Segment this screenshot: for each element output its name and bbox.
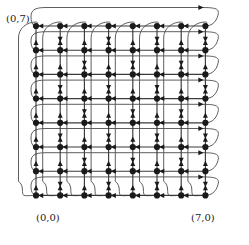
graph-node[interactable] xyxy=(33,144,39,150)
edge-arrow-down-stub xyxy=(155,182,160,187)
edge-arrow-up xyxy=(179,40,184,45)
graph-node[interactable] xyxy=(81,96,87,102)
edge-arrow-up xyxy=(34,88,39,93)
graph-node[interactable] xyxy=(57,23,63,29)
graph-node[interactable] xyxy=(130,47,136,53)
edge-arrow-down-stub xyxy=(130,109,135,114)
graph-node[interactable] xyxy=(106,144,112,150)
graph-node[interactable] xyxy=(106,23,112,29)
graph-node[interactable] xyxy=(81,144,87,150)
graph-node[interactable] xyxy=(57,47,63,53)
graph-node[interactable] xyxy=(154,71,160,77)
graph-node[interactable] xyxy=(178,120,184,126)
graph-node[interactable] xyxy=(130,144,136,150)
graph-node[interactable] xyxy=(202,47,208,53)
graph-node[interactable] xyxy=(202,96,208,102)
graph-node[interactable] xyxy=(81,168,87,174)
graph-node[interactable] xyxy=(57,168,63,174)
edge-arrow-up xyxy=(82,137,87,142)
graph-node[interactable] xyxy=(154,47,160,53)
graph-node[interactable] xyxy=(154,192,160,198)
graph-node[interactable] xyxy=(202,23,208,29)
wrap-arrow-horizontal xyxy=(198,126,203,131)
edge-arrow-up xyxy=(179,137,184,142)
graph-node[interactable] xyxy=(106,192,112,198)
edge-arrow-down-stub xyxy=(203,133,208,138)
graph-node[interactable] xyxy=(130,168,136,174)
graph-node[interactable] xyxy=(33,71,39,77)
graph-node[interactable] xyxy=(33,168,39,174)
graph-node[interactable] xyxy=(202,120,208,126)
edge-arrow-up xyxy=(203,161,208,166)
wrap-arrow-horizontal xyxy=(198,102,203,107)
graph-node[interactable] xyxy=(106,120,112,126)
graph-node[interactable] xyxy=(202,192,208,198)
edge-arrow-down-stub xyxy=(155,85,160,90)
edge-arrow-up xyxy=(82,40,87,45)
edge-arrow-up xyxy=(34,185,39,190)
graph-node[interactable] xyxy=(154,96,160,102)
graph-node[interactable] xyxy=(33,120,39,126)
graph-node[interactable] xyxy=(33,23,39,29)
graph-node[interactable] xyxy=(178,71,184,77)
edge-arrow-down-stub xyxy=(82,158,87,163)
graph-node[interactable] xyxy=(202,144,208,150)
graph-node[interactable] xyxy=(33,47,39,53)
graph-node[interactable] xyxy=(57,120,63,126)
graph-node[interactable] xyxy=(106,96,112,102)
graph-node[interactable] xyxy=(130,23,136,29)
edge-arrow-up xyxy=(155,64,160,69)
torus-graph-figure: (0,7) (0,0) (7,0) xyxy=(0,0,249,245)
graph-node[interactable] xyxy=(57,96,63,102)
graph-node[interactable] xyxy=(57,71,63,77)
graph-node[interactable] xyxy=(178,192,184,198)
graph-node[interactable] xyxy=(178,23,184,29)
edge-arrow-up xyxy=(34,161,39,166)
graph-node[interactable] xyxy=(106,71,112,77)
graph-node[interactable] xyxy=(178,96,184,102)
graph-node[interactable] xyxy=(130,71,136,77)
wrap-arrow-horizontal xyxy=(198,174,203,179)
edge-arrow-up xyxy=(82,185,87,190)
graph-node[interactable] xyxy=(33,96,39,102)
graph-node[interactable] xyxy=(106,47,112,53)
edge-arrow-up xyxy=(58,64,63,69)
graph-canvas xyxy=(0,0,249,245)
wrap-arrow-horizontal xyxy=(198,5,203,10)
graph-node[interactable] xyxy=(81,120,87,126)
graph-node[interactable] xyxy=(57,192,63,198)
graph-node[interactable] xyxy=(154,120,160,126)
edge-arrow-down-stub xyxy=(179,158,184,163)
edge-arrow-up xyxy=(203,64,208,69)
edge-arrow-down-stub xyxy=(130,61,135,66)
edge-arrow-down-stub xyxy=(106,85,111,90)
graph-node[interactable] xyxy=(33,192,39,198)
graph-node[interactable] xyxy=(81,192,87,198)
graph-node[interactable] xyxy=(178,168,184,174)
graph-node[interactable] xyxy=(130,96,136,102)
graph-node[interactable] xyxy=(202,71,208,77)
edge-arrow-down-stub xyxy=(203,182,208,187)
edge-arrow-up xyxy=(34,40,39,45)
graph-node[interactable] xyxy=(81,47,87,53)
edge-arrow-up xyxy=(155,161,160,166)
graph-node[interactable] xyxy=(154,168,160,174)
edge-arrow-down-stub xyxy=(155,133,160,138)
edge-arrow-down-stub xyxy=(106,133,111,138)
graph-node[interactable] xyxy=(178,47,184,53)
graph-node[interactable] xyxy=(81,71,87,77)
graph-node[interactable] xyxy=(130,192,136,198)
graph-node[interactable] xyxy=(130,120,136,126)
graph-node[interactable] xyxy=(57,144,63,150)
graph-node[interactable] xyxy=(106,168,112,174)
wrap-arrow-horizontal xyxy=(198,53,203,58)
edge-arrow-down-stub xyxy=(203,37,208,42)
edge-arrow-down-stub xyxy=(203,85,208,90)
graph-node[interactable] xyxy=(178,144,184,150)
graph-node[interactable] xyxy=(81,23,87,29)
graph-node[interactable] xyxy=(154,23,160,29)
graph-node[interactable] xyxy=(154,144,160,150)
graph-node[interactable] xyxy=(202,168,208,174)
wrap-arrow-horizontal xyxy=(198,29,203,34)
edge-arrow-down-stub xyxy=(179,61,184,66)
